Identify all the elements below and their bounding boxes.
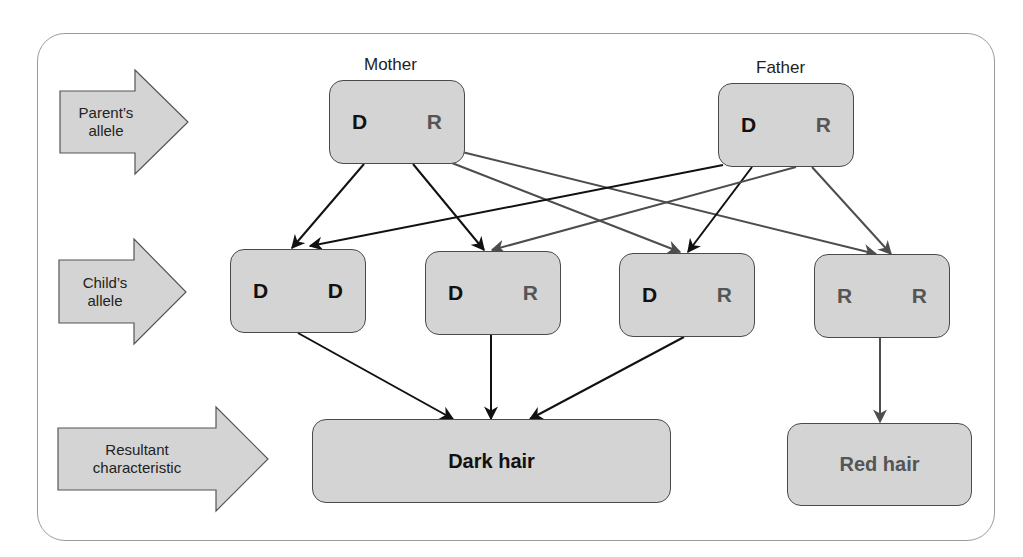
- mother-allele-box: D R: [329, 80, 465, 164]
- father-allele-box: D R: [718, 83, 854, 167]
- child1-allele-2: D: [328, 279, 343, 303]
- dark-hair-box: Dark hair: [312, 419, 671, 503]
- arrow-child3-to-dark-hair: [530, 337, 684, 419]
- child4-allele-2: R: [912, 284, 927, 308]
- child-allele-box-4: R R: [814, 254, 950, 338]
- child3-allele-1: D: [642, 283, 657, 307]
- child1-allele-1: D: [253, 279, 268, 303]
- dark-hair-label: Dark hair: [448, 450, 535, 473]
- child-allele-box-1: D D: [230, 249, 366, 333]
- child-allele-box-2: D R: [425, 251, 561, 335]
- father-allele-1: D: [741, 113, 756, 137]
- child3-allele-2: R: [717, 283, 732, 307]
- child-allele-box-3: D R: [619, 253, 755, 337]
- arrow-child1-to-dark-hair: [298, 333, 453, 419]
- father-label: Father: [756, 58, 805, 78]
- child2-allele-1: D: [448, 281, 463, 305]
- red-hair-label: Red hair: [839, 453, 919, 476]
- arrow-mother-d-to-child1: [292, 164, 364, 248]
- mother-allele-1: D: [352, 110, 367, 134]
- father-allele-2: R: [816, 113, 831, 137]
- child2-allele-2: R: [523, 281, 538, 305]
- mother-allele-2: R: [427, 110, 442, 134]
- mother-label: Mother: [364, 55, 417, 75]
- red-hair-box: Red hair: [787, 423, 972, 506]
- arrow-mother-d-to-child2: [413, 164, 484, 250]
- arrow-father-d-to-child1: [310, 165, 723, 246]
- child4-allele-1: R: [837, 284, 852, 308]
